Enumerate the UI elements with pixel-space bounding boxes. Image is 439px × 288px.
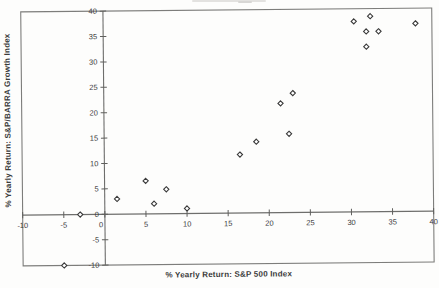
data-point <box>364 44 369 49</box>
y-tick-label: 10 <box>90 159 98 168</box>
data-point <box>151 201 156 206</box>
data-point <box>278 101 283 106</box>
data-point <box>143 178 148 183</box>
y-tick-label: 15 <box>90 134 98 143</box>
data-point <box>413 21 418 26</box>
data-point <box>351 19 356 24</box>
y-tick-label: 20 <box>90 108 98 117</box>
data-point <box>286 131 291 136</box>
data-point <box>184 206 189 211</box>
y-tick-label: -5 <box>92 235 99 244</box>
x-tick-label: 20 <box>265 219 273 228</box>
data-point <box>78 212 83 217</box>
x-tick-label: 35 <box>388 218 396 227</box>
y-tick-label: 40 <box>89 7 97 16</box>
scanned-page: -10-50510152025303540-10-505101520253035… <box>0 0 439 288</box>
data-point <box>290 90 295 95</box>
data-point <box>368 14 373 19</box>
data-point <box>164 187 169 192</box>
data-point <box>114 196 119 201</box>
x-tick-label: 25 <box>306 218 314 227</box>
y-tick-label: -10 <box>88 261 99 270</box>
x-tick-label: -10 <box>17 221 28 230</box>
data-point <box>237 152 242 157</box>
y-tick-label: 35 <box>89 32 97 41</box>
x-tick-label: -5 <box>60 221 67 230</box>
x-tick-label: 0 <box>99 220 103 229</box>
y-tick-label: 5 <box>94 185 98 194</box>
y-tick-label: 0 <box>95 210 99 219</box>
data-point <box>254 139 259 144</box>
chart-canvas: -10-50510152025303540-10-505101520253035… <box>0 0 439 288</box>
x-tick-label: 10 <box>183 219 191 228</box>
x-tick-label: 30 <box>347 218 355 227</box>
x-tick-label: 5 <box>144 220 148 229</box>
y-tick-label: 30 <box>89 58 97 67</box>
data-point <box>62 263 67 268</box>
x-tick-label: 40 <box>430 217 438 226</box>
data-point <box>376 29 381 34</box>
scatter-chart: -10-50510152025303540-10-505101520253035… <box>0 0 439 288</box>
x-tick-label: 15 <box>224 219 232 228</box>
data-point <box>364 29 369 34</box>
y-tick-label: 25 <box>89 83 97 92</box>
